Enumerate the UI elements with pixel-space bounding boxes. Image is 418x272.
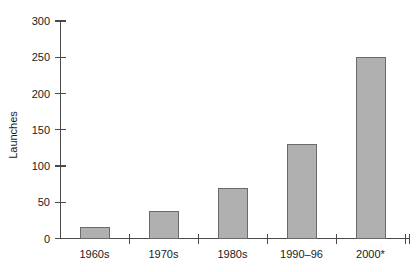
bar-chart: 050100150200250300 1960s1970s1980s1990–9… [0, 0, 418, 272]
bar [219, 188, 248, 238]
x-tick-label: 2000* [356, 248, 385, 260]
bar [357, 57, 386, 238]
bar [150, 212, 179, 239]
y-axis-title: Launches [7, 111, 19, 159]
y-tick-label: 0 [44, 233, 50, 245]
x-tick-label: 1980s [218, 248, 248, 260]
chart-background [0, 0, 418, 272]
x-tick-label: 1960s [80, 248, 110, 260]
y-tick-label: 50 [38, 196, 50, 208]
bar [81, 228, 110, 239]
y-tick-label: 150 [32, 124, 50, 136]
x-tick-label: 1970s [149, 248, 179, 260]
y-tick-label: 200 [32, 88, 50, 100]
chart-canvas: 050100150200250300 1960s1970s1980s1990–9… [0, 0, 418, 272]
y-tick-label: 300 [32, 15, 50, 27]
y-tick-label: 250 [32, 51, 50, 63]
x-tick-label: 1990–96 [280, 248, 323, 260]
bar [288, 144, 317, 238]
y-tick-label: 100 [32, 160, 50, 172]
